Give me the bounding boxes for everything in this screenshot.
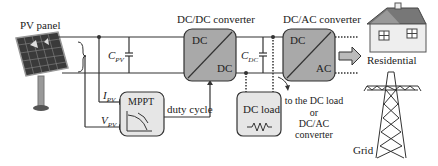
grid-label: Grid [353, 145, 373, 156]
pv-panel-label: PV panel [20, 20, 60, 31]
ipv-label: IPV [103, 90, 115, 104]
output-arrow-icon [339, 47, 361, 65]
duty-cycle-label: duty cycle [167, 104, 213, 115]
cpv-label: CPV [108, 50, 124, 64]
house-icon [367, 3, 426, 52]
annotation-line4: converter [284, 130, 344, 140]
dcdc-title: DC/DC converter [177, 14, 255, 25]
pv-panel-icon [16, 32, 68, 111]
mppt-label: MPPT [128, 97, 154, 107]
cdc-label: CDC [241, 50, 258, 64]
dcac-out-label: AC [316, 63, 331, 74]
annotation-line1: to the DC load [284, 96, 344, 106]
dcdc-in-label: DC [192, 35, 207, 46]
dcdc-out-label: DC [217, 63, 232, 74]
annotation-line3: DC/AC [284, 119, 344, 129]
dcac-title: DC/AC converter [283, 14, 361, 25]
residential-label: Residential [367, 55, 417, 66]
dcac-in-label: DC [290, 35, 305, 46]
dc-load-label: DC load [243, 104, 280, 115]
annotation-line2: or [284, 108, 344, 118]
vpv-label: VPV [101, 115, 116, 129]
